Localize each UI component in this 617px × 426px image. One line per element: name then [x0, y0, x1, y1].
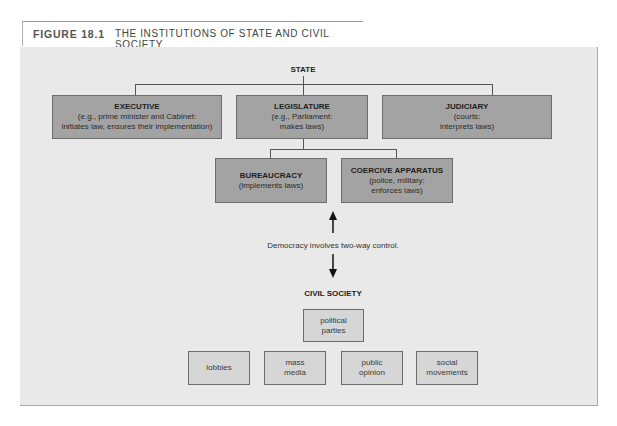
public-opinion-box: public opinion [341, 351, 403, 385]
civil-society-label: CIVIL SOCIETY [283, 289, 383, 298]
box-text: media [284, 368, 306, 378]
box-text: movements [426, 368, 467, 378]
lobbies-box: lobbies [188, 351, 250, 385]
box-text: lobbies [206, 363, 231, 373]
box-text: social [437, 358, 457, 368]
box-text: parties [321, 326, 345, 336]
social-movements-box: social movements [416, 351, 478, 385]
box-text: mass [285, 358, 304, 368]
political-parties-box: political parties [303, 309, 364, 342]
box-text: public [362, 358, 383, 368]
box-text: political [320, 316, 347, 326]
mass-media-box: mass media [264, 351, 326, 385]
box-text: opinion [359, 368, 385, 378]
